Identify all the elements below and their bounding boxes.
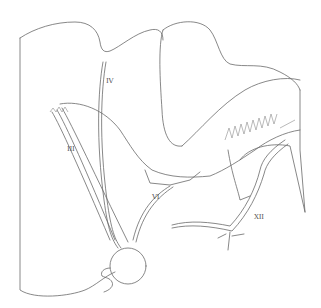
anatomical-drawing: IV III VI XII (0, 0, 321, 308)
cerebellum-arc (240, 145, 305, 212)
drawing-canvas (0, 0, 321, 308)
nerve-xii-branch (218, 232, 244, 250)
label-vi: VI (152, 194, 159, 201)
nerve-iv-2 (102, 62, 121, 248)
upper-lobe (163, 22, 300, 90)
cerebellum-edge (228, 150, 250, 200)
brain-outline (20, 22, 163, 52)
nerve-iii-fan (50, 107, 68, 112)
pons-lower (145, 170, 200, 185)
brainstem (60, 103, 300, 177)
eyeball (110, 248, 146, 284)
lobe-inner-left (160, 30, 182, 146)
fiber-tail (280, 120, 295, 128)
label-iii: III (67, 146, 74, 153)
lobe-inner-curve (182, 78, 300, 146)
label-xii: XII (254, 214, 264, 221)
nerve-xii-2 (172, 144, 288, 231)
fiber-comb (225, 114, 277, 140)
label-iv: IV (106, 78, 113, 85)
nerve-iii-2 (57, 110, 115, 240)
